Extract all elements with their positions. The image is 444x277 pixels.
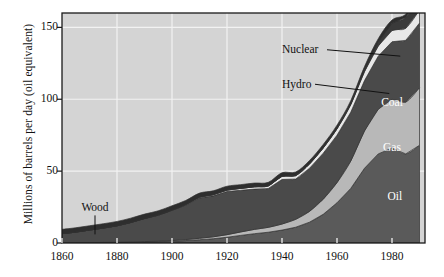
x-tick-1900: 1900	[161, 251, 184, 263]
x-tick-1960: 1960	[326, 251, 349, 263]
x-tick-1920: 1920	[216, 251, 239, 263]
annotation-wood: Wood	[81, 201, 108, 213]
x-tick-1940: 1940	[271, 251, 294, 263]
annotation-nuclear: Nuclear	[282, 43, 319, 55]
x-axis-tick-labels: 1860188019001920194019601980	[0, 247, 444, 267]
annotation-gas: Gas	[383, 141, 401, 153]
annotation-coal: Coal	[381, 96, 403, 108]
energy-consumption-chart: Millions of barrels per day (oil equival…	[0, 0, 444, 277]
x-tick-1880: 1880	[106, 251, 129, 263]
x-tick-1980: 1980	[381, 251, 404, 263]
x-tick-1860: 1860	[51, 251, 74, 263]
plot-area: WoodHydroNuclearCoalGasOil	[0, 0, 444, 277]
annotation-oil: Oil	[387, 190, 402, 202]
annotation-hydro: Hydro	[282, 78, 312, 91]
